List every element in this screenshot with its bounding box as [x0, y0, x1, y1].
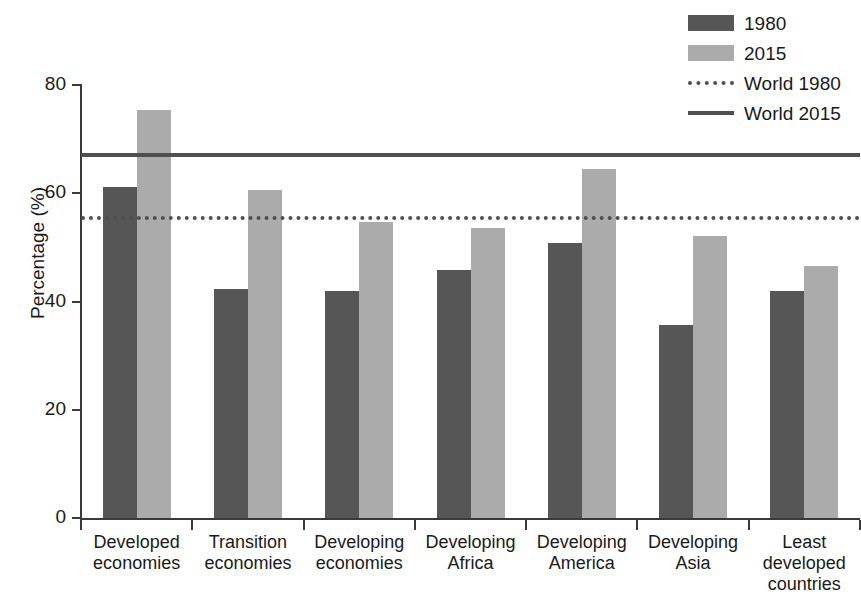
reference-line-world-1980 [81, 216, 860, 220]
x-category-label-line: economies [304, 553, 415, 574]
bar-1980-7 [770, 291, 804, 518]
x-category-label-line: Developing [304, 532, 415, 553]
bar-1980-5 [548, 243, 582, 518]
x-tick-mark [414, 520, 416, 530]
x-category-label-line: Developing [526, 532, 637, 553]
y-tick-label: 40 [6, 290, 66, 312]
x-category-label-2: Transitioneconomies [192, 532, 303, 574]
legend-item-2015: 2015 [688, 38, 858, 68]
bar-2015-2 [248, 190, 282, 518]
x-tick-mark [303, 520, 305, 530]
x-tick-mark [191, 520, 193, 530]
legend-label-2015: 2015 [744, 44, 786, 63]
y-tick-label: 60 [6, 181, 66, 203]
x-category-label-line: countries [749, 574, 860, 594]
y-tick-label: 80 [6, 73, 66, 95]
x-category-label-6: DevelopingAsia [637, 532, 748, 574]
plot-area [81, 85, 860, 518]
x-category-label-line: Asia [637, 553, 748, 574]
bar-2015-4 [471, 228, 505, 518]
x-category-label-1: Developedeconomies [81, 532, 192, 574]
bar-2015-3 [359, 222, 393, 518]
bar-1980-6 [659, 325, 693, 518]
x-category-label-line: Africa [415, 553, 526, 574]
x-category-label-line: Developing [415, 532, 526, 553]
bar-2015-5 [582, 169, 616, 518]
x-category-label-line: Transition [192, 532, 303, 553]
legend-item-1980: 1980 [688, 8, 858, 38]
bar-1980-1 [103, 187, 137, 518]
x-tick-mark [525, 520, 527, 530]
y-tick-label: 0 [6, 506, 66, 528]
legend-label-1980: 1980 [744, 14, 786, 33]
x-category-label-7: Leastdevelopedcountries [749, 532, 860, 594]
bar-2015-6 [693, 236, 727, 518]
x-category-label-3: Developingeconomies [304, 532, 415, 574]
bar-2015-1 [137, 110, 171, 518]
reference-line-world-2015 [81, 153, 860, 157]
x-category-label-4: DevelopingAfrica [415, 532, 526, 574]
bar-1980-2 [214, 289, 248, 518]
x-category-label-line: developed [749, 553, 860, 574]
x-category-label-line: America [526, 553, 637, 574]
bar-2015-7 [804, 266, 838, 518]
bar-1980-4 [437, 270, 471, 518]
bar-1980-3 [325, 291, 359, 518]
x-category-label-line: economies [192, 553, 303, 574]
x-tick-mark [80, 520, 82, 530]
x-category-label-line: Developed [81, 532, 192, 553]
legend-swatch-2015-icon [688, 38, 734, 68]
x-tick-mark [636, 520, 638, 530]
y-tick-label: 20 [6, 398, 66, 420]
x-category-label-line: Least [749, 532, 860, 553]
x-category-label-line: Developing [637, 532, 748, 553]
x-category-label-5: DevelopingAmerica [526, 532, 637, 574]
x-tick-mark [748, 520, 750, 530]
x-axis-line [80, 518, 860, 520]
legend-swatch-1980-icon [688, 8, 734, 38]
x-category-label-line: economies [81, 553, 192, 574]
